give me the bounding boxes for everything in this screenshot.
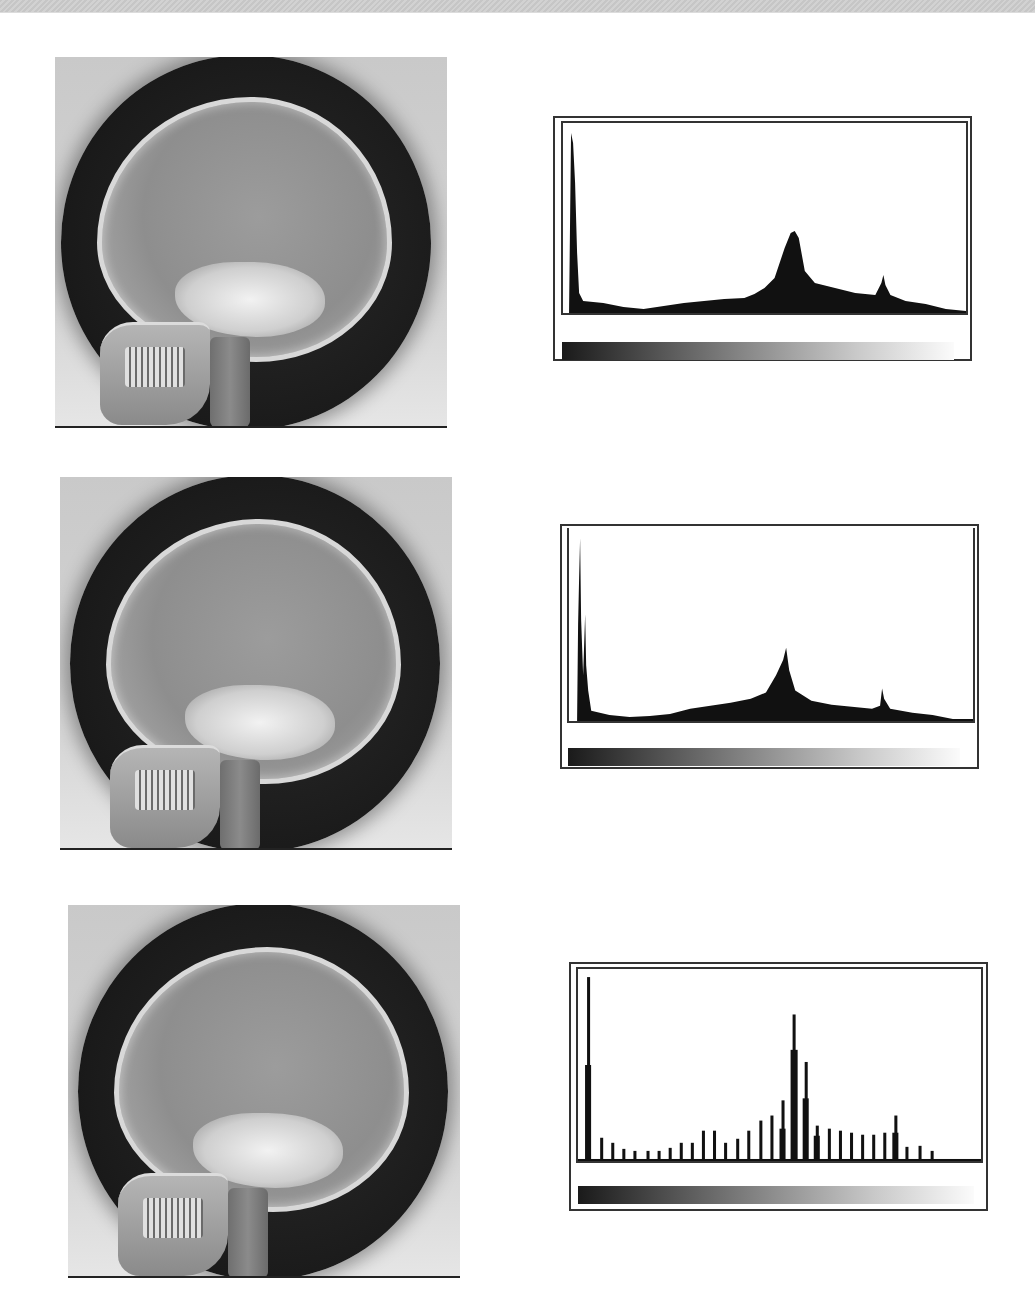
image-rule-1: [55, 426, 447, 428]
spine-2: [220, 760, 260, 850]
histogram-plot-2: [567, 528, 975, 723]
spine-1: [210, 337, 250, 427]
histogram-panel-1: [553, 116, 972, 361]
xray-image-2: [60, 477, 452, 850]
grayscale-bar-1: [562, 342, 954, 360]
teeth-3: [143, 1198, 203, 1238]
page-top-strip: [0, 0, 1035, 13]
histogram-panel-3: [569, 962, 988, 1211]
teeth-2: [135, 770, 195, 810]
grayscale-bar-3: [578, 1186, 974, 1204]
image-rule-3: [68, 1276, 460, 1278]
histogram-panel-2: [560, 524, 979, 769]
spine-3: [228, 1188, 268, 1278]
image-rule-2: [60, 848, 452, 850]
histogram-plot-1: [561, 121, 968, 315]
histogram-plot-3: [576, 967, 983, 1163]
xray-image-1: [55, 57, 447, 428]
teeth-1: [125, 347, 185, 387]
histogram-chart-3: [578, 969, 981, 1161]
histogram-chart-2: [569, 528, 973, 721]
xray-image-3: [68, 905, 460, 1278]
grayscale-bar-2: [568, 748, 960, 766]
histogram-chart-1: [563, 123, 966, 313]
